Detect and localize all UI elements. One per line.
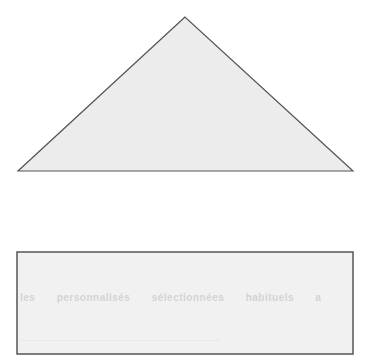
show-through-text-line-1: les personnalisés sélectionnées habituel… [20,292,352,303]
diagram-canvas [0,0,371,360]
triangle-shape [18,17,353,171]
show-through-text-line-2: ........................................… [20,333,352,343]
